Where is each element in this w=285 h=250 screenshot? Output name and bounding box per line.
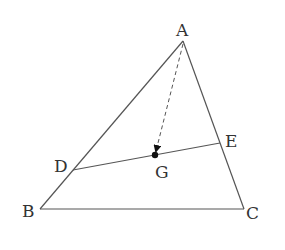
label-D: D [54, 156, 68, 176]
label-B: B [22, 201, 35, 221]
point-G-dot [152, 152, 158, 158]
segment-AB [40, 41, 183, 209]
segment-AC [183, 41, 244, 209]
label-G: G [155, 162, 169, 182]
triangle-diagram: A B C D E G [0, 0, 285, 250]
label-A: A [175, 20, 189, 40]
label-E: E [225, 131, 237, 151]
label-C: C [246, 203, 259, 223]
segment-DE [73, 143, 220, 170]
dashed-vector-AG [156, 44, 183, 151]
